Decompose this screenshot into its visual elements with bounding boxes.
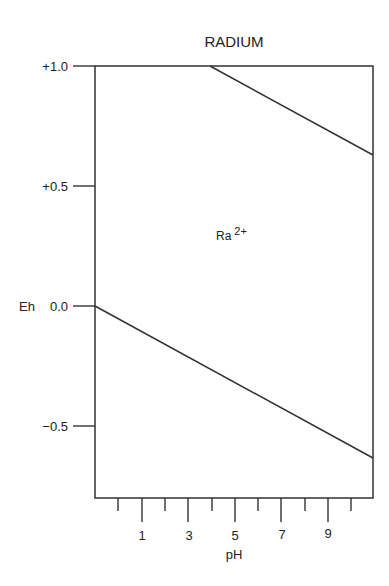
chart-title: RADIUM xyxy=(204,33,263,50)
upper-stability-line xyxy=(210,66,373,155)
y-tick-label: +1.0 xyxy=(42,59,68,74)
y-tick-label: −0.5 xyxy=(42,419,68,434)
y-tick-label: +0.5 xyxy=(42,179,68,194)
x-axis-ticks xyxy=(118,498,351,522)
species-symbol: Ra xyxy=(216,229,232,243)
plot-frame xyxy=(95,66,373,498)
x-tick-label: 1 xyxy=(138,528,145,543)
x-tick-label: 9 xyxy=(324,526,331,541)
y-axis-ticks xyxy=(73,66,95,426)
y-tick-label: 0.0 xyxy=(50,299,68,314)
lower-stability-line xyxy=(95,306,373,458)
x-tick-label: 3 xyxy=(185,528,192,543)
species-charge: 2+ xyxy=(234,225,247,237)
x-tick-label: 5 xyxy=(231,528,238,543)
x-tick-label: 7 xyxy=(278,527,285,542)
species-label: Ra2+ xyxy=(216,225,247,243)
x-axis-label: pH xyxy=(226,547,243,562)
y-axis-label: Eh xyxy=(19,299,35,314)
eh-ph-diagram: RADIUM +1.0 +0.5 0.0 −0.5 Eh 1 3 5 7 9 p… xyxy=(0,0,389,586)
